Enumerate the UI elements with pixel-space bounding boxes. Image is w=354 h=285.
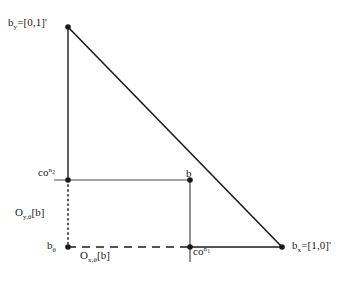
- label-projection-y-rest: [b]: [32, 206, 45, 218]
- label-co-n2: con2: [38, 167, 55, 178]
- dot-co-n2: [65, 177, 71, 183]
- label-vertex-right: bx=[1,0]': [292, 240, 331, 251]
- label-vertex-right-sub: x: [298, 246, 302, 254]
- label-co-n1: con1: [193, 246, 210, 257]
- label-vertex-top-rest: =[0,1]': [17, 16, 47, 28]
- label-vertex-right-rest: =[1,0]': [301, 239, 331, 251]
- dot-co-n1: [187, 244, 193, 250]
- label-co-n1-base: co: [193, 245, 204, 257]
- label-co-n2-sup: n2: [49, 166, 55, 174]
- label-point-b: b: [186, 168, 192, 179]
- dot-origin: [65, 244, 71, 250]
- label-projection-x-base: O: [80, 249, 88, 261]
- dot-right-vertex: [279, 244, 285, 250]
- label-projection-y-base: O: [15, 206, 23, 218]
- label-projection-y: Oy,θ[b]: [15, 207, 45, 218]
- label-origin-base: b: [47, 239, 53, 251]
- label-origin-sub: θ: [53, 246, 56, 254]
- label-vertex-right-base: b: [292, 239, 298, 251]
- label-projection-x: Ox,θ[b]: [80, 250, 110, 261]
- label-projection-x-rest: [b]: [97, 249, 110, 261]
- label-projection-y-sub: y,θ: [23, 213, 31, 221]
- segment-hypotenuse: [68, 27, 282, 247]
- label-co-n2-sup-sub: 2: [52, 169, 55, 175]
- label-vertex-top: by=[0,1]': [8, 17, 47, 28]
- label-point-b-base: b: [186, 167, 192, 179]
- label-vertex-top-base: b: [8, 16, 14, 28]
- dot-apex: [65, 24, 71, 30]
- label-projection-x-sub: x,θ: [88, 256, 97, 264]
- figure-root: by=[0,1]' bx=[1,0]' b con2 con1 bθ Oy,θ[…: [0, 0, 354, 285]
- label-origin: bθ: [47, 240, 56, 251]
- label-co-n1-sup-sub: 1: [207, 248, 210, 254]
- label-co-n1-sup: n1: [204, 245, 210, 253]
- label-co-n2-base: co: [38, 166, 49, 178]
- label-vertex-top-sub: y: [14, 23, 18, 31]
